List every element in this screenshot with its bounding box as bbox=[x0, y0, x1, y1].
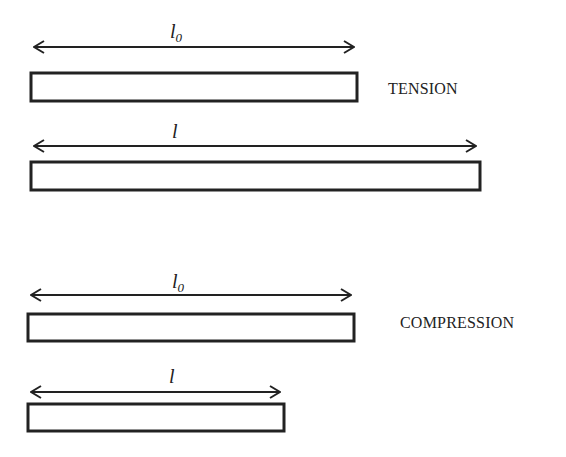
compression-original-group bbox=[28, 295, 354, 341]
length-symbol: l bbox=[172, 120, 178, 142]
tension-deformed-bar bbox=[31, 162, 480, 190]
tension-caption: TENSION bbox=[388, 80, 458, 98]
length-subscript: 0 bbox=[178, 280, 185, 295]
compression-caption: COMPRESSION bbox=[400, 314, 514, 332]
compression-original-length-label: l0 bbox=[172, 270, 184, 296]
tension-original-length-label: l0 bbox=[170, 20, 182, 46]
tension-deformed-length-label: l bbox=[172, 120, 178, 143]
diagram-canvas bbox=[0, 0, 566, 457]
length-subscript: 0 bbox=[176, 30, 183, 45]
compression-deformed-group bbox=[28, 392, 284, 431]
tension-original-bar bbox=[31, 73, 357, 101]
compression-deformed-bar bbox=[28, 404, 284, 431]
tension-original-group bbox=[31, 47, 357, 101]
length-symbol: l bbox=[169, 365, 175, 387]
tension-deformed-group bbox=[31, 146, 480, 190]
compression-deformed-length-label: l bbox=[169, 365, 175, 388]
compression-original-bar bbox=[28, 314, 354, 341]
